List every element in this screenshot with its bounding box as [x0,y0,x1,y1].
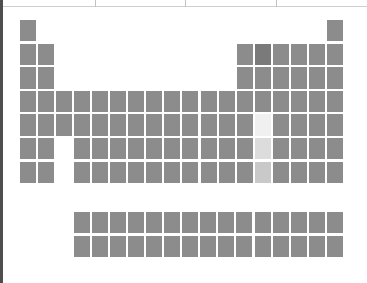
cell-r7-c6[interactable] [110,162,126,183]
cell-f2-c11[interactable] [255,236,271,257]
cell-r5-c10[interactable] [182,114,198,135]
cell-r5-c5[interactable] [92,114,108,135]
cell-r3-c18[interactable] [327,67,343,88]
cell-r6-c5[interactable] [92,138,108,159]
cell-f1-c1[interactable] [74,212,90,233]
cell-r6-c6[interactable] [110,138,126,159]
cell-r4-c9[interactable] [164,91,180,112]
cell-r7-c10[interactable] [182,162,198,183]
cell-r5-c13[interactable] [237,114,253,135]
cell-r5-c6[interactable] [110,114,126,135]
cell-r7-c2[interactable] [38,162,54,183]
cell-r5-c1[interactable] [20,114,36,135]
cell-r2-c1[interactable] [20,44,36,65]
cell-f2-c15[interactable] [327,236,343,257]
cell-r3-c1[interactable] [20,67,36,88]
cell-r5-c17[interactable] [309,114,325,135]
cell-f2-c2[interactable] [92,236,108,257]
cell-r3-c16[interactable] [291,67,307,88]
cell-r7-c18[interactable] [327,162,343,183]
cell-r7-c16[interactable] [291,162,307,183]
cell-r6-c15[interactable] [273,138,289,159]
cell-f1-c12[interactable] [273,212,289,233]
cell-r1-c1[interactable] [20,20,36,41]
cell-r7-c9[interactable] [164,162,180,183]
cell-r7-c17[interactable] [309,162,325,183]
cell-r6-c12[interactable] [219,138,235,159]
cell-r5-c3[interactable] [56,114,72,135]
cell-f2-c1[interactable] [74,236,90,257]
cell-f1-c7[interactable] [182,212,198,233]
cell-r5-c8[interactable] [146,114,162,135]
cell-r7-c7[interactable] [128,162,144,183]
cell-r5-c18[interactable] [327,114,343,135]
cell-r6-c11[interactable] [201,138,217,159]
cell-r7-c13[interactable] [237,162,253,183]
cell-r5-c9[interactable] [164,114,180,135]
cell-r4-c17[interactable] [309,91,325,112]
cell-r6-c16[interactable] [291,138,307,159]
cell-r3-c13[interactable] [237,67,253,88]
cell-r6-c13[interactable] [237,138,253,159]
cell-r2-c15[interactable] [273,44,289,65]
cell-r6-c7[interactable] [128,138,144,159]
cell-r4-c1[interactable] [20,91,36,112]
cell-r4-c15[interactable] [273,91,289,112]
cell-r6-c17[interactable] [309,138,325,159]
cell-r6-c8[interactable] [146,138,162,159]
cell-f2-c9[interactable] [218,236,234,257]
cell-r6-c2[interactable] [38,138,54,159]
cell-r5-c2[interactable] [38,114,54,135]
cell-r4-c4[interactable] [74,91,90,112]
cell-r3-c2[interactable] [38,67,54,88]
cell-f2-c4[interactable] [128,236,144,257]
cell-r5-c7[interactable] [128,114,144,135]
cell-f2-c7[interactable] [182,236,198,257]
cell-r2-c16[interactable] [291,44,307,65]
cell-r7-c12[interactable] [219,162,235,183]
cell-r7-c15[interactable] [273,162,289,183]
cell-f1-c5[interactable] [146,212,162,233]
cell-r7-c11[interactable] [201,162,217,183]
cell-r5-c16[interactable] [291,114,307,135]
cell-r5-c14[interactable] [255,114,271,135]
cell-r4-c13[interactable] [237,91,253,112]
cell-r4-c3[interactable] [56,91,72,112]
cell-f2-c3[interactable] [110,236,126,257]
cell-f2-c12[interactable] [273,236,289,257]
cell-r2-c13[interactable] [237,44,253,65]
cell-r4-c10[interactable] [182,91,198,112]
cell-r3-c17[interactable] [309,67,325,88]
cell-r5-c11[interactable] [201,114,217,135]
cell-r1-c18[interactable] [327,20,343,41]
cell-f2-c8[interactable] [200,236,216,257]
cell-f2-c10[interactable] [236,236,252,257]
cell-f2-c14[interactable] [309,236,325,257]
cell-r7-c1[interactable] [20,162,36,183]
cell-r5-c12[interactable] [219,114,235,135]
cell-r5-c15[interactable] [273,114,289,135]
cell-r4-c12[interactable] [219,91,235,112]
cell-r3-c15[interactable] [273,67,289,88]
cell-f1-c14[interactable] [309,212,325,233]
cell-r4-c5[interactable] [92,91,108,112]
cell-r4-c11[interactable] [201,91,217,112]
cell-r6-c18[interactable] [327,138,343,159]
cell-r6-c4[interactable] [74,138,90,159]
cell-r2-c18[interactable] [327,44,343,65]
cell-r6-c1[interactable] [20,138,36,159]
cell-f1-c9[interactable] [218,212,234,233]
cell-r7-c5[interactable] [92,162,108,183]
cell-r4-c2[interactable] [38,91,54,112]
cell-r3-c14[interactable] [255,67,271,88]
cell-f2-c6[interactable] [164,236,180,257]
cell-f1-c2[interactable] [92,212,108,233]
cell-f1-c6[interactable] [164,212,180,233]
cell-f2-c13[interactable] [291,236,307,257]
cell-r7-c8[interactable] [146,162,162,183]
cell-f1-c10[interactable] [236,212,252,233]
cell-f1-c8[interactable] [200,212,216,233]
cell-f1-c13[interactable] [291,212,307,233]
cell-r7-c4[interactable] [74,162,90,183]
cell-r6-c14[interactable] [255,138,271,159]
